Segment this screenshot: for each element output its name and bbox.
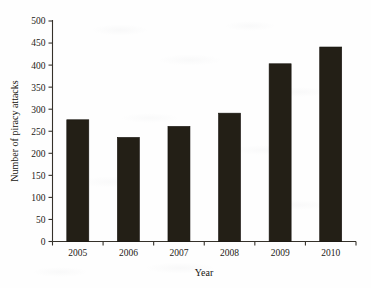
y-tick-label: 50 bbox=[36, 215, 46, 225]
x-axis-title: Year bbox=[195, 267, 214, 278]
x-tick-label: 2006 bbox=[119, 248, 138, 258]
y-tick-label: 500 bbox=[31, 16, 46, 26]
bar bbox=[219, 113, 241, 241]
y-tick-label: 450 bbox=[31, 38, 46, 48]
y-axis-tick-labels: 050100150200250300350400450500 bbox=[31, 16, 46, 247]
x-tick-label: 2009 bbox=[271, 248, 290, 258]
y-tick-label: 250 bbox=[31, 127, 46, 137]
y-axis-title: Number of piracy attacks bbox=[9, 80, 20, 181]
x-tick-label: 2008 bbox=[220, 248, 239, 258]
x-tick-label: 2007 bbox=[169, 248, 188, 258]
bar bbox=[117, 137, 139, 241]
bar bbox=[269, 64, 291, 242]
y-tick-label: 100 bbox=[31, 193, 46, 203]
y-axis-ticks bbox=[49, 21, 53, 242]
y-tick-label: 400 bbox=[31, 61, 46, 71]
y-tick-label: 300 bbox=[31, 105, 46, 115]
y-tick-label: 150 bbox=[31, 171, 46, 181]
x-axis-ticks bbox=[53, 242, 357, 246]
bar bbox=[67, 120, 89, 242]
y-tick-label: 350 bbox=[31, 83, 46, 93]
x-tick-label: 2010 bbox=[321, 248, 340, 258]
y-tick-label: 200 bbox=[31, 149, 46, 159]
x-tick-label: 2005 bbox=[68, 248, 87, 258]
bar bbox=[168, 126, 190, 241]
bar bbox=[320, 47, 342, 241]
y-tick-label: 0 bbox=[41, 237, 46, 247]
bar-series bbox=[67, 47, 342, 241]
bar-chart: 050100150200250300350400450500 200520062… bbox=[0, 0, 371, 288]
x-axis-tick-labels: 200520062007200820092010 bbox=[68, 248, 340, 258]
chart-figure: 050100150200250300350400450500 200520062… bbox=[0, 0, 371, 288]
